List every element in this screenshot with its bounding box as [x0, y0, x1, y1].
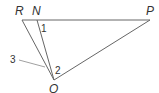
angle-3-leader — [19, 60, 45, 67]
angle-1-label: 1 — [41, 23, 47, 34]
angle-2-label: 2 — [55, 65, 61, 76]
segment-rq — [22, 20, 54, 80]
segment-pq — [54, 20, 150, 80]
point-q-label: Q — [49, 82, 58, 93]
point-n-label: N — [32, 4, 41, 18]
point-p-label: P — [146, 4, 154, 18]
angle-3-label: 3 — [10, 54, 16, 65]
triangle-diagram: R N P Q 1 2 3 — [0, 0, 159, 93]
point-r-label: R — [15, 4, 24, 18]
